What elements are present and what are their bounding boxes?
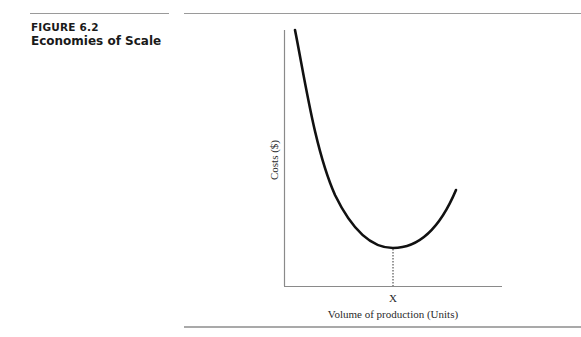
cost-curve xyxy=(295,30,456,248)
y-axis-label: Costs ($) xyxy=(268,140,281,180)
x-axis-label: Volume of production (Units) xyxy=(328,308,459,321)
x-tick-label: X xyxy=(389,292,397,304)
cost-curve-chart: X Volume of production (Units) Costs ($) xyxy=(0,0,581,337)
